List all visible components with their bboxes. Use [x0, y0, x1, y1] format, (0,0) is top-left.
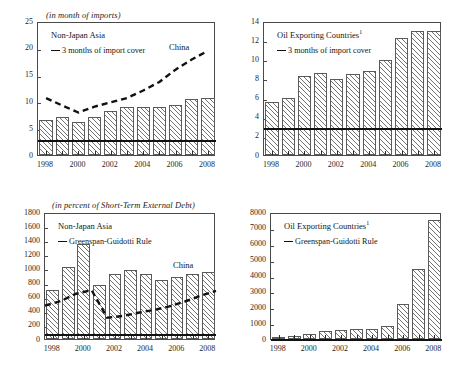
y-tick-mark	[271, 278, 274, 279]
legend-entry: Greenspan-Guidotti Rule	[284, 237, 378, 246]
y-tick-label: 6000	[238, 239, 266, 248]
x-tick-label: 2002	[324, 344, 356, 353]
footnote-marker: 1	[366, 220, 369, 226]
y-tick-mark	[271, 309, 274, 310]
x-tick-mark	[357, 335, 358, 339]
y-tick-label: 8000	[238, 208, 266, 217]
x-tick-mark	[310, 335, 311, 339]
legend-label: Greenspan-Guidotti Rule	[295, 237, 378, 246]
y-tick-label: 3000	[238, 287, 266, 296]
x-tick-label: 2006	[386, 344, 418, 353]
y-tick-mark	[271, 246, 274, 247]
x-tick-label: 1998	[262, 344, 294, 353]
x-tick-mark	[388, 335, 389, 339]
x-tick-label: 2008	[417, 344, 449, 353]
x-tick-mark	[325, 335, 326, 339]
y-tick-mark	[271, 230, 274, 231]
y-tick-mark	[271, 325, 274, 326]
bar	[428, 220, 441, 339]
x-tick-label: 2004	[355, 344, 387, 353]
y-tick-label: 4000	[238, 271, 266, 280]
y-tick-mark	[271, 293, 274, 294]
x-tick-mark	[434, 335, 435, 339]
x-tick-mark	[372, 335, 373, 339]
y-tick-label: 7000	[238, 223, 266, 232]
legend-line-swatch	[284, 241, 293, 242]
figure-root: (in month of imports)0510152025199820002…	[0, 0, 456, 391]
x-tick-mark	[341, 335, 342, 339]
bar	[412, 269, 425, 339]
region-label: Oil Exporting Countries1	[284, 221, 369, 231]
y-tick-label: 5000	[238, 255, 266, 264]
bar	[397, 304, 410, 339]
plot-area-bottom-right	[270, 213, 441, 340]
y-tick-mark	[271, 262, 274, 263]
x-tick-mark	[294, 335, 295, 339]
y-tick-label: 1000	[238, 319, 266, 328]
x-tick-mark	[419, 335, 420, 339]
y-tick-label: 0	[238, 335, 266, 344]
y-tick-label: 2000	[238, 303, 266, 312]
chart-panel-bottom-right: 0100020003000400050006000700080001998200…	[0, 0, 456, 391]
x-tick-mark	[279, 335, 280, 339]
x-tick-mark	[403, 335, 404, 339]
x-tick-label: 2000	[293, 344, 325, 353]
reference-line	[271, 339, 442, 341]
